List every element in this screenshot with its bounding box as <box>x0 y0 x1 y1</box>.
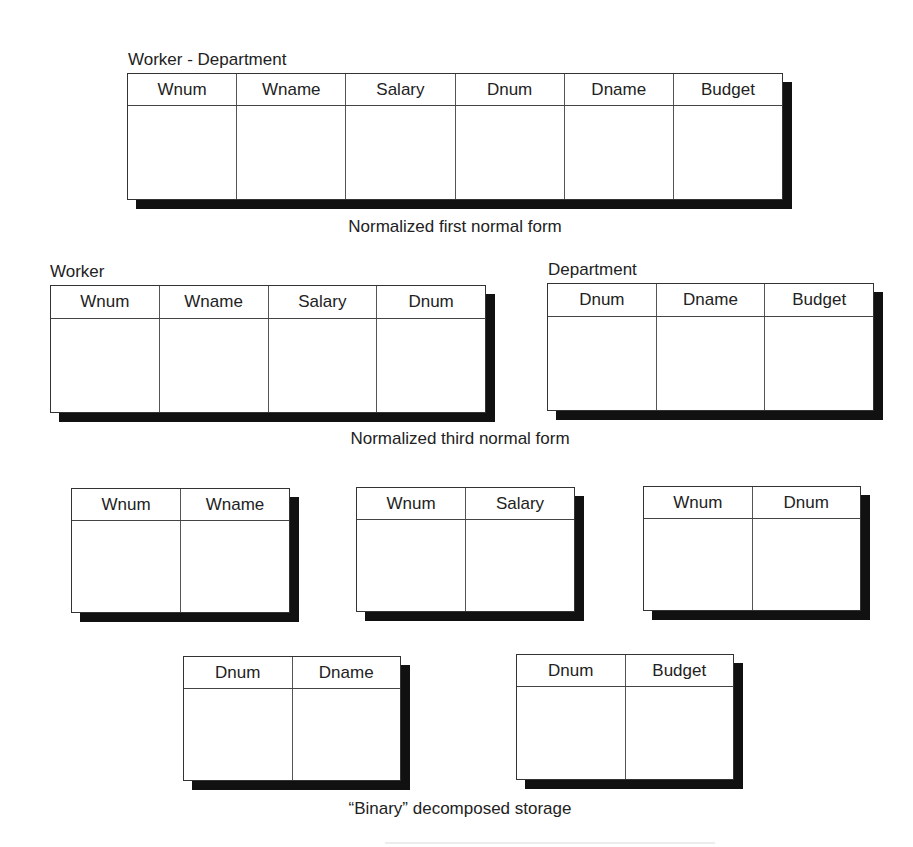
table-header-row: Wnum Wname Salary Dnum Dname Budget <box>128 74 782 106</box>
table-wnum-wname: Wnum Wname <box>71 488 290 613</box>
table-body <box>644 519 860 610</box>
table-body <box>51 319 485 412</box>
table-header-row: Wnum Wname <box>72 489 289 521</box>
table-body <box>128 106 782 199</box>
column-body <box>236 106 345 199</box>
table-body <box>548 317 873 410</box>
column-header-budget: Budget <box>625 655 734 686</box>
column-header-salary: Salary <box>465 488 574 519</box>
column-header-dnum: Dnum <box>752 487 861 518</box>
column-body <box>625 687 734 779</box>
table-body <box>184 689 400 780</box>
column-body <box>752 519 861 610</box>
table-header-row: Dnum Budget <box>517 655 733 687</box>
column-header-salary: Salary <box>268 286 377 318</box>
column-body <box>292 689 401 780</box>
column-header-dname: Dname <box>292 657 401 688</box>
column-body <box>465 520 574 611</box>
table-title-worker-department: Worker - Department <box>128 50 286 70</box>
column-body <box>184 689 292 780</box>
table-wnum-dnum: Wnum Dnum <box>643 486 861 611</box>
column-body <box>268 319 377 412</box>
column-header-dnum: Dnum <box>376 286 485 318</box>
column-header-budget: Budget <box>764 284 873 316</box>
column-header-wnum: Wnum <box>644 487 752 518</box>
column-body <box>159 319 268 412</box>
column-body <box>51 319 159 412</box>
column-body <box>656 317 765 410</box>
column-header-dnum: Dnum <box>184 657 292 688</box>
column-body <box>180 521 289 612</box>
caption-third-normal-form: Normalized third normal form <box>300 429 620 449</box>
table-header-row: Dnum Dname Budget <box>548 284 873 317</box>
table-wnum-salary: Wnum Salary <box>356 487 575 612</box>
table-title-worker: Worker <box>50 262 104 282</box>
table-title-department: Department <box>548 260 637 280</box>
column-body <box>455 106 564 199</box>
column-header-dnum: Dnum <box>455 74 564 105</box>
table-worker-department: Wnum Wname Salary Dnum Dname Budget <box>127 73 783 200</box>
column-body <box>72 521 180 612</box>
table-dnum-dname: Dnum Dname <box>183 656 401 781</box>
bleed-through-line <box>385 842 715 844</box>
column-header-wnum: Wnum <box>128 74 236 105</box>
table-header-row: Dnum Dname <box>184 657 400 689</box>
column-header-wname: Wname <box>159 286 268 318</box>
column-body <box>673 106 782 199</box>
table-header-row: Wnum Wname Salary Dnum <box>51 286 485 319</box>
table-body <box>72 521 289 612</box>
column-header-salary: Salary <box>345 74 454 105</box>
column-body <box>517 687 625 779</box>
column-header-wname: Wname <box>180 489 289 520</box>
column-header-wnum: Wnum <box>357 488 465 519</box>
column-body <box>764 317 873 410</box>
caption-binary-decomposed: “Binary” decomposed storage <box>300 799 620 819</box>
column-body <box>345 106 454 199</box>
caption-first-normal-form: Normalized first normal form <box>300 217 610 237</box>
table-department: Dnum Dname Budget <box>547 283 874 411</box>
column-header-dnum: Dnum <box>517 655 625 686</box>
column-body <box>376 319 485 412</box>
column-header-wnum: Wnum <box>51 286 159 318</box>
column-body <box>357 520 465 611</box>
column-header-budget: Budget <box>673 74 782 105</box>
table-body <box>357 520 574 611</box>
column-header-wnum: Wnum <box>72 489 180 520</box>
table-dnum-budget: Dnum Budget <box>516 654 734 780</box>
column-body <box>548 317 656 410</box>
column-body <box>128 106 236 199</box>
table-worker: Wnum Wname Salary Dnum <box>50 285 486 413</box>
table-body <box>517 687 733 779</box>
column-header-dnum: Dnum <box>548 284 656 316</box>
table-header-row: Wnum Salary <box>357 488 574 520</box>
column-body <box>644 519 752 610</box>
table-header-row: Wnum Dnum <box>644 487 860 519</box>
column-header-dname: Dname <box>656 284 765 316</box>
column-body <box>564 106 673 199</box>
column-header-wname: Wname <box>236 74 345 105</box>
column-header-dname: Dname <box>564 74 673 105</box>
